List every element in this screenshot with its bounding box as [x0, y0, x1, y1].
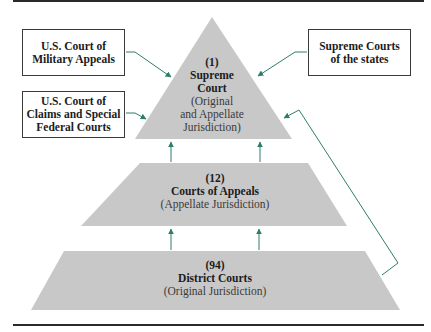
district-jurisdiction: (Original Jurisdiction) [140, 285, 290, 298]
claims-federal-courts-box: U.S. Court of Claims and Special Federal… [22, 91, 125, 138]
military-line1: U.S. Court of [32, 40, 115, 53]
courts-of-appeals-label: (12) Courts of Appeals (Appellate Jurisd… [140, 172, 290, 211]
supreme-name-2: Court [162, 82, 262, 95]
military-line2: Military Appeals [32, 53, 115, 66]
appeals-name: Courts of Appeals [140, 185, 290, 198]
district-count: (94) [140, 259, 290, 272]
supreme-count: (1) [162, 56, 262, 69]
arrow-states-to-supreme [258, 52, 307, 76]
district-courts-label: (94) District Courts (Original Jurisdict… [140, 259, 290, 298]
arrow-claims-to-supreme [126, 113, 146, 119]
supreme-jurisdiction-1: (Original [162, 95, 262, 108]
supreme-jurisdiction-2: and Appellate [162, 108, 262, 121]
claims-line2: Claims and Special [27, 108, 121, 121]
claims-line1: U.S. Court of [27, 95, 121, 108]
district-name: District Courts [140, 272, 290, 285]
military-appeals-box: U.S. Court of Military Appeals [22, 29, 125, 76]
states-line1: Supreme Courts [319, 40, 400, 53]
state-supreme-courts-box: Supreme Courts of the states [308, 29, 411, 76]
supreme-court-label: (1) Supreme Court (Original and Appellat… [162, 56, 262, 134]
appeals-jurisdiction: (Appellate Jurisdiction) [140, 198, 290, 211]
appeals-count: (12) [140, 172, 290, 185]
supreme-jurisdiction-3: Jurisdiction) [162, 121, 262, 134]
supreme-name-1: Supreme [162, 69, 262, 82]
claims-line3: Federal Courts [27, 121, 121, 134]
states-line2: of the states [319, 53, 400, 66]
